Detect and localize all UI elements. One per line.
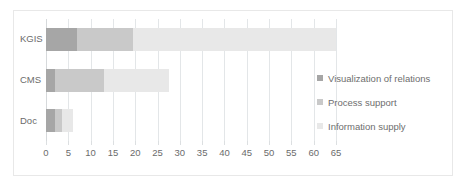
axis-tick <box>291 141 292 145</box>
axis-tick <box>158 141 159 145</box>
axis-tick <box>68 141 69 145</box>
axis-tick <box>180 141 181 145</box>
axis-tick-label: 50 <box>264 147 275 158</box>
legend-item: Process support <box>317 92 452 112</box>
axis-tick <box>336 141 337 145</box>
axis-tick-label: 5 <box>66 147 71 158</box>
bar-segment[interactable] <box>133 28 336 51</box>
axis-tick-label: 30 <box>175 147 186 158</box>
legend-swatch-icon <box>317 123 323 129</box>
legend-label: Process support <box>328 97 397 108</box>
axis-tick-label: 45 <box>241 147 252 158</box>
axis-tick-label: 20 <box>130 147 141 158</box>
axis-tick-label: 35 <box>197 147 208 158</box>
legend-swatch-icon <box>317 75 323 81</box>
axis-tick <box>46 141 47 145</box>
axis-tick-label: 60 <box>308 147 319 158</box>
plot-area <box>46 19 336 141</box>
axis-tick-label: 0 <box>43 147 48 158</box>
axis-tick <box>269 141 270 145</box>
legend-swatch-icon <box>317 99 323 105</box>
bar-segment[interactable] <box>104 69 169 92</box>
bar-segment[interactable] <box>62 109 73 132</box>
axis-tick <box>113 141 114 145</box>
bar-series-group <box>46 19 336 141</box>
legend: Visualization of relations Process suppo… <box>317 68 452 140</box>
axis-tick-label: 65 <box>331 147 342 158</box>
bar-segment[interactable] <box>55 69 104 92</box>
bar-row[interactable] <box>46 69 169 92</box>
value-axis: 05101520253035404550556065 <box>46 141 336 163</box>
axis-tick <box>91 141 92 145</box>
bar-row[interactable] <box>46 28 336 51</box>
axis-tick-label: 10 <box>85 147 96 158</box>
bar-segment[interactable] <box>46 109 55 132</box>
axis-tick-label: 55 <box>286 147 297 158</box>
legend-item: Information supply <box>317 116 452 136</box>
axis-tick-label: 15 <box>108 147 119 158</box>
axis-tick <box>314 141 315 145</box>
axis-tick-label: 40 <box>219 147 230 158</box>
axis-tick <box>224 141 225 145</box>
axis-tick <box>135 141 136 145</box>
legend-label: Visualization of relations <box>328 73 430 84</box>
legend-item: Visualization of relations <box>317 68 452 88</box>
bar-segment[interactable] <box>77 28 133 51</box>
bar-row[interactable] <box>46 109 73 132</box>
chart-frame: KGIS CMS Doc 05101520253035404550556065 … <box>13 10 453 176</box>
bar-segment[interactable] <box>55 109 62 132</box>
bar-segment[interactable] <box>46 69 55 92</box>
axis-tick <box>202 141 203 145</box>
legend-label: Information supply <box>328 121 406 132</box>
axis-tick <box>247 141 248 145</box>
bar-segment[interactable] <box>46 28 77 51</box>
axis-tick-label: 25 <box>152 147 163 158</box>
